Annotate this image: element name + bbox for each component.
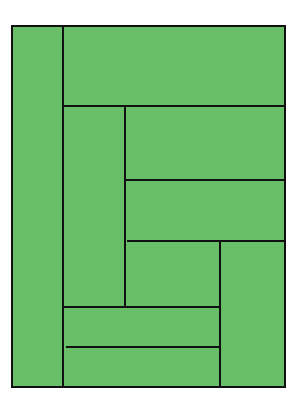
partition-line (125, 179, 286, 181)
partition-line (127, 240, 286, 242)
partition-line (66, 346, 221, 348)
partition-line (219, 241, 221, 388)
partition-line (63, 105, 286, 107)
partition-line (62, 25, 64, 388)
partition-line (63, 306, 221, 308)
dissected-rectangle (11, 25, 286, 388)
partition-line (124, 106, 126, 307)
